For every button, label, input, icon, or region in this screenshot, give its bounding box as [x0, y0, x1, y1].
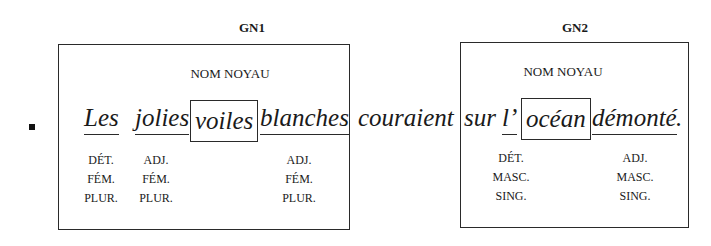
gn2-word-demonte: démonté — [592, 103, 677, 135]
feature-label: PLUR. — [135, 189, 177, 208]
gn1-features-les: DÉT. FÉM. PLUR. — [80, 151, 122, 208]
bullet-icon — [29, 124, 35, 130]
gn1-noyau-label: NOM NOYAU — [180, 66, 280, 82]
feature-label: ADJ. — [278, 151, 320, 170]
gn1-word-jolies: jolies — [135, 103, 189, 135]
feature-label: ADJ. — [135, 151, 177, 170]
gn2-word-ocean-core: océan — [521, 98, 591, 140]
feature-label: FÉM. — [135, 170, 177, 189]
verb-couraient: couraient — [358, 103, 454, 133]
gn2-title: GN2 — [545, 20, 605, 36]
gn1-features-blanches: ADJ. FÉM. PLUR. — [278, 151, 320, 208]
feature-label: DÉT. — [490, 149, 532, 168]
gn2-word-sur: sur — [464, 103, 496, 133]
gn2-features-l: DÉT. MASC. SING. — [490, 149, 532, 206]
gn1-word-voiles-core: voiles — [190, 100, 258, 142]
gn1-title: GN1 — [222, 20, 282, 36]
gn2-final-period: . — [676, 103, 682, 133]
gn1-word-les: Les — [84, 103, 119, 135]
feature-label: MASC. — [490, 168, 532, 187]
gn2-features-demonte: ADJ. MASC. SING. — [614, 149, 656, 206]
feature-label: ADJ. — [614, 149, 656, 168]
feature-label: DÉT. — [80, 151, 122, 170]
feature-label: MASC. — [614, 168, 656, 187]
feature-label: SING. — [490, 187, 532, 206]
feature-label: PLUR. — [80, 189, 122, 208]
gn1-features-jolies: ADJ. FÉM. PLUR. — [135, 151, 177, 208]
gn1-word-blanches: blanches — [260, 103, 349, 135]
feature-label: FÉM. — [278, 170, 320, 189]
feature-label: SING. — [614, 187, 656, 206]
gn2-noyau-label: NOM NOYAU — [513, 64, 613, 80]
gn2-word-l: l’ — [502, 103, 517, 135]
feature-label: PLUR. — [278, 189, 320, 208]
feature-label: FÉM. — [80, 170, 122, 189]
